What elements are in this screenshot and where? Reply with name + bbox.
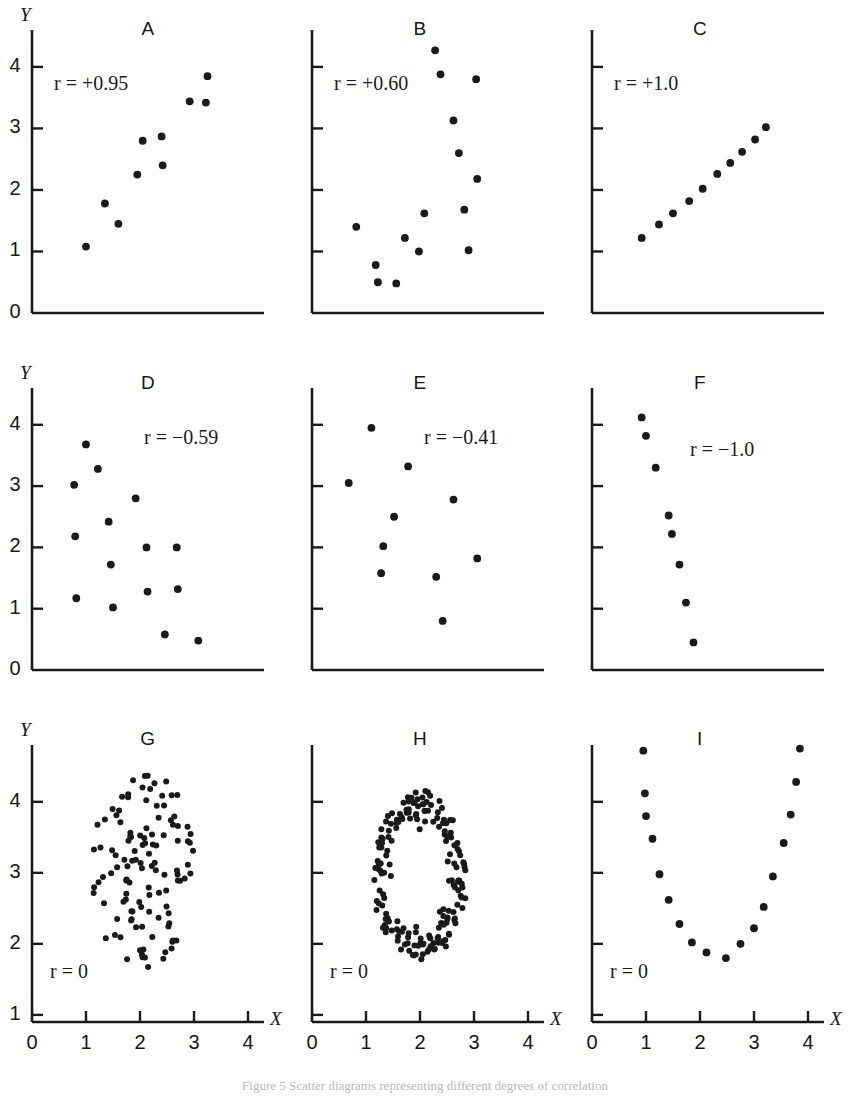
data-point xyxy=(173,938,179,944)
data-point xyxy=(405,934,411,940)
data-point xyxy=(140,946,146,952)
data-point xyxy=(94,465,102,473)
data-point xyxy=(158,133,166,141)
data-point xyxy=(443,820,449,826)
data-point xyxy=(188,831,194,837)
correlation-label-c: r = +1.0 xyxy=(614,72,678,95)
data-point xyxy=(116,808,122,814)
data-point xyxy=(166,920,172,926)
data-point xyxy=(436,925,442,931)
y-tick-label-1: 1 xyxy=(5,596,25,619)
y-axis-label: Y xyxy=(20,719,31,741)
data-point xyxy=(386,834,392,840)
plot-area-a xyxy=(0,0,850,1097)
data-point xyxy=(383,916,389,922)
data-point xyxy=(98,845,104,851)
data-point xyxy=(437,70,445,78)
data-point xyxy=(102,817,108,823)
data-point xyxy=(140,784,146,790)
data-point xyxy=(461,861,467,867)
data-point xyxy=(175,872,181,878)
data-point xyxy=(420,801,426,807)
data-point xyxy=(376,900,382,906)
data-point xyxy=(377,843,383,849)
data-point xyxy=(117,819,123,825)
data-point xyxy=(137,833,143,839)
data-point xyxy=(127,830,133,836)
data-point xyxy=(147,786,153,792)
data-point xyxy=(121,857,127,863)
data-point xyxy=(162,949,168,955)
data-point xyxy=(638,414,646,422)
data-point xyxy=(101,200,109,208)
data-point xyxy=(652,464,660,472)
data-point xyxy=(389,810,395,816)
correlation-label-i: r = 0 xyxy=(610,960,648,983)
x-axis-label: X xyxy=(550,1008,562,1030)
data-point xyxy=(415,796,421,802)
data-point xyxy=(169,945,175,951)
data-point xyxy=(404,810,410,816)
data-point xyxy=(159,793,165,799)
data-point xyxy=(451,860,457,866)
data-point xyxy=(118,934,124,940)
y-tick-label-4: 4 xyxy=(5,54,25,77)
data-point xyxy=(425,808,431,814)
data-point xyxy=(130,777,136,783)
data-point xyxy=(70,481,78,489)
data-point xyxy=(455,846,461,852)
data-point xyxy=(123,896,129,902)
data-point xyxy=(378,861,384,867)
data-point xyxy=(404,807,410,813)
x-tick-label-3: 3 xyxy=(184,1031,204,1054)
data-point xyxy=(439,805,445,811)
data-point xyxy=(404,463,412,471)
data-point xyxy=(174,792,180,798)
data-point xyxy=(473,555,481,563)
data-point xyxy=(656,870,664,878)
data-point xyxy=(425,789,431,795)
data-point xyxy=(420,942,426,948)
data-point xyxy=(394,926,400,932)
data-point xyxy=(435,934,441,940)
data-point xyxy=(108,870,114,876)
data-point xyxy=(169,939,175,945)
data-point xyxy=(435,940,441,946)
data-point xyxy=(374,907,380,913)
data-point xyxy=(430,940,436,946)
data-point xyxy=(146,851,152,857)
data-point xyxy=(450,117,458,125)
data-point xyxy=(161,832,167,838)
data-point xyxy=(377,569,385,577)
data-point xyxy=(442,937,448,943)
data-point xyxy=(386,919,392,925)
data-point xyxy=(91,847,97,853)
data-point xyxy=(163,779,169,785)
data-point xyxy=(381,895,387,901)
data-point xyxy=(91,884,97,890)
data-point xyxy=(378,834,384,840)
x-tick-label-2: 2 xyxy=(690,1031,710,1054)
data-point xyxy=(125,794,131,800)
data-point xyxy=(769,873,777,881)
data-point xyxy=(101,900,107,906)
y-tick-label-2: 2 xyxy=(5,931,25,954)
data-point xyxy=(372,261,380,269)
data-point xyxy=(448,834,454,840)
data-point xyxy=(431,46,439,54)
data-point xyxy=(445,914,451,920)
figure-caption: Figure 5 Scatter diagrams representing d… xyxy=(0,1078,850,1094)
data-point xyxy=(722,954,730,962)
data-point xyxy=(399,814,405,820)
y-tick-label-3: 3 xyxy=(5,115,25,138)
data-point xyxy=(128,908,134,914)
data-point xyxy=(112,932,118,938)
x-tick-label-1: 1 xyxy=(76,1031,96,1054)
data-point xyxy=(138,904,144,910)
data-point xyxy=(411,800,417,806)
data-point xyxy=(375,866,381,872)
data-point xyxy=(376,863,382,869)
data-point xyxy=(411,952,417,958)
data-point xyxy=(417,826,423,832)
data-point xyxy=(173,543,181,551)
